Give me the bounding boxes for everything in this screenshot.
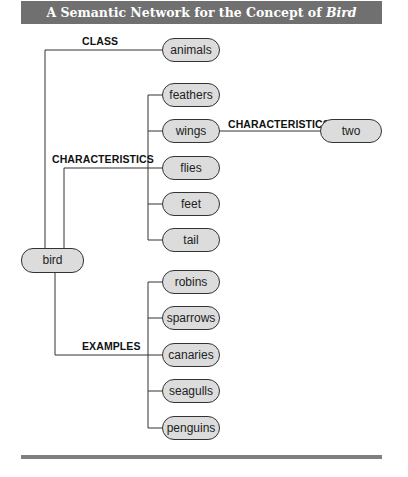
node-feathers: feathers xyxy=(162,83,220,107)
node-robins: robins xyxy=(162,270,220,294)
footer-divider xyxy=(21,455,382,459)
node-canaries: canaries xyxy=(162,343,220,367)
relation-wing-characteristics-label: CHARACTERISTICS xyxy=(228,118,330,130)
node-bird: bird xyxy=(21,248,84,273)
relation-characteristics-label: CHARACTERISTICS xyxy=(52,153,154,165)
node-penguins: penguins xyxy=(162,416,220,440)
node-two: two xyxy=(320,119,382,143)
node-seagulls: seagulls xyxy=(162,379,220,403)
node-flies: flies xyxy=(162,156,220,180)
relation-class-label: CLASS xyxy=(82,35,118,47)
node-tail: tail xyxy=(162,228,220,252)
node-feet: feet xyxy=(162,192,220,216)
node-animals: animals xyxy=(162,38,220,62)
node-sparrows: sparrows xyxy=(162,306,220,330)
relation-examples-label: EXAMPLES xyxy=(82,340,141,352)
node-wings: wings xyxy=(162,119,220,143)
